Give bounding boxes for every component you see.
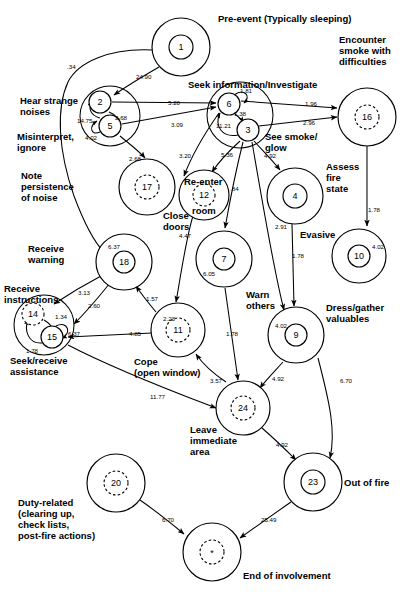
edge-weight-6-3: 1.38 [234,110,246,117]
edge-weight-3-4: 4.92 [264,152,276,159]
node-15[interactable]: 15 [41,326,63,348]
diagram-canvas: 125631617124187101415119242320* .3424.90… [0,0,420,611]
node-7[interactable]: 7 [196,231,252,287]
edge-weight-3-16: 2.96 [303,119,315,126]
edge-9-23 [318,358,332,458]
node-16-id: 16 [362,112,372,122]
edge-1-2 [114,67,159,95]
node-18-id: 18 [119,257,129,267]
edge-weight-15-15: 6.37 [68,330,80,337]
edge-weight-9-24: 4.92 [272,375,284,382]
node-caption-10: Close doors [163,210,189,232]
edge-4-9 [292,224,294,306]
edge-weight-5-6: 3.09 [171,121,183,128]
node-14[interactable]: 14 [22,303,44,325]
node-18[interactable]: 18 [96,234,152,290]
edge-weight-18-15: 2.60 [88,302,100,309]
edge-weight-9-9: 4.02 [275,322,287,329]
node-7-id: 7 [221,254,226,264]
node-11-id: 11 [173,325,182,335]
node-caption-15: Dress/gather valuables [326,302,384,324]
edge-weight-1-2: 24.90 [136,73,151,80]
edge-weight-5-2: 14.75 [77,117,92,124]
edge-weight-3-9: 2.91 [275,223,287,230]
node-3-id: 3 [245,125,250,135]
node-caption-4: Misinterpret, ignore [17,131,74,153]
edge-weight-5-17: 2.68 [129,155,141,162]
node-caption-16: Cope (open window) [134,356,201,378]
node-9-id: 9 [293,330,298,340]
node-4[interactable]: 4 [267,168,323,224]
node-15-id: 15 [47,332,57,342]
edge-6-16 [241,101,337,108]
edge-weight-24-23: 4.92 [276,441,288,448]
edge-weight-16-10: 1.78 [368,206,380,213]
node-caption-2: Seek information/Investigate [188,79,317,90]
edge-weight-9-23: 6.70 [340,377,352,384]
node-11[interactable]: 11 [151,303,205,357]
node-caption-14: Receive instructions [4,283,58,305]
node-2[interactable]: 2 [89,91,111,113]
edge-weight-3-6: 11.21 [216,122,231,129]
node-1[interactable]: 1 [152,18,210,76]
edge-weight-6-12: 3.20 [179,152,191,159]
node-20-id: 20 [111,478,121,488]
node-caption-1: Encounter smoke with difficulties [339,34,391,67]
node-17[interactable]: 17 [119,159,175,215]
node-17-id: 17 [142,182,152,192]
edge-weight-5-5: 4.02 [85,134,97,141]
edge-weight-1-18: .34 [67,63,76,70]
node-4-id: 4 [292,191,297,201]
edge-weight-2-6: 5.20 [168,99,180,106]
node-1-id: 1 [178,42,183,52]
edge-weight-12-11: 4.47 [179,232,191,239]
edge-6-12 [184,113,219,176]
edge-weight-20-*: 6.70 [162,516,174,523]
edge-weight-6-16: 1.96 [305,100,317,107]
node-24-id: 24 [238,403,248,413]
node-6-id: 6 [226,99,231,109]
node-caption-6: Assess fire state [326,161,359,194]
node-14-id: 14 [28,309,38,319]
node-caption-20: Duty-related (clearing up, check lists, … [18,497,95,541]
node-caption-7: Note persistence of noise [21,170,74,203]
edge-weight-11-11: 2.23 [163,315,175,322]
node-2-id: 2 [97,97,102,107]
edge-weight-4-9: 1.78 [292,252,304,259]
node-caption-18: Leave immediate area [190,424,237,457]
node-caption-12: Receive warning [28,243,64,265]
node-caption-13: Warn others [246,289,275,311]
edge-weight-15-14: 1.78 [26,347,38,354]
edge-3-16 [259,117,337,126]
node-caption-9: room [192,205,216,216]
node-10-id: 10 [354,251,364,261]
node-23[interactable]: 23 [284,453,342,511]
node-caption-5: See smoke/ glow [265,131,317,153]
edge-weight-14-15: 1.34 [55,313,67,320]
edge-weight-3-7: .84 [230,185,239,192]
node-*-id: * [210,548,214,558]
edge-weight-7-24: 1.78 [226,330,238,337]
edge-weight-11-15: 4.85 [129,330,141,337]
node-16[interactable]: 16 [338,88,396,146]
node-caption-3: Hear strange noises [20,95,78,117]
node-caption-21: End of involvement [243,570,331,581]
edge-weight-2-5: 2.68 [115,114,127,121]
node-12-id: 12 [199,190,209,200]
edge-weight-10-10: 4.02 [372,243,384,250]
edge-weight-3-12: 5.36 [221,151,233,158]
node-3[interactable]: 3 [237,119,259,141]
edge-weight-11-18: 1.57 [146,295,158,302]
node-caption-11: Evasive [300,229,335,240]
edge-weight-15-24: 11.77 [150,393,165,400]
node-9[interactable]: 9 [268,307,324,363]
edge-weight-23-*: 25.49 [261,516,276,523]
node-*[interactable]: * [183,523,241,581]
edge-weight-18-14: 3.13 [78,289,90,296]
node-23-id: 23 [308,477,318,487]
node-20[interactable]: 20 [87,454,145,512]
edge-weight-7-7: 6.05 [203,270,215,277]
edge-weight-18-18: 6.37 [108,243,120,250]
node-5-id: 5 [107,121,112,131]
node-10[interactable]: 10 [332,229,386,283]
